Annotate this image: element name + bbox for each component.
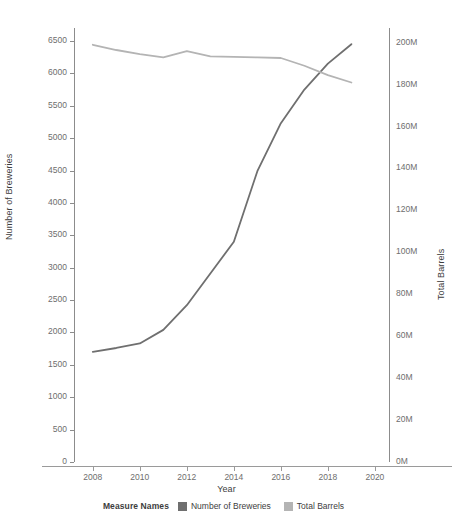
y-right-tick-40M: 40M (396, 372, 436, 382)
y-left-tick-4000: 4000 (34, 197, 67, 207)
legend-title: Measure Names (103, 501, 169, 511)
chart-plot-area (0, 0, 453, 528)
x-axis-title: Year (0, 484, 453, 494)
legend-label-barrels: Total Barrels (297, 501, 344, 511)
legend-swatch-barrels (284, 502, 293, 511)
y-right-tick-140M: 140M (396, 162, 436, 172)
y-left-tick-3000: 3000 (34, 262, 67, 272)
y-left-tick-1000: 1000 (34, 391, 67, 401)
legend-item-barrels[interactable]: Total Barrels (284, 501, 344, 511)
y-right-tick-0M: 0M (396, 456, 436, 466)
y-left-tick-0: 0 (34, 456, 67, 466)
y-left-tick-500: 500 (34, 424, 67, 434)
legend-item-breweries[interactable]: Number of Breweries (178, 501, 271, 511)
y-right-tick-20M: 20M (396, 414, 436, 424)
y-left-tick-4500: 4500 (34, 165, 67, 175)
series-line-barrels (93, 45, 352, 83)
series-line-breweries (93, 44, 352, 352)
y-right-tick-180M: 180M (396, 79, 436, 89)
x-tick-2014: 2014 (214, 472, 254, 482)
y-axis-right-title: Total Barrels (436, 249, 446, 300)
x-tick-2012: 2012 (167, 472, 207, 482)
y-right-tick-60M: 60M (396, 330, 436, 340)
y-left-tick-5000: 5000 (34, 132, 67, 142)
y-axis-left-title: Number of Breweries (4, 154, 14, 240)
y-right-tick-160M: 160M (396, 121, 436, 131)
y-right-tick-80M: 80M (396, 288, 436, 298)
y-left-tick-6000: 6000 (34, 67, 67, 77)
x-tick-2008: 2008 (73, 472, 113, 482)
y-left-tick-3500: 3500 (34, 229, 67, 239)
y-left-tick-5500: 5500 (34, 100, 67, 110)
dual-axis-line-chart: 0500100015002000250030003500400045005000… (0, 0, 453, 528)
y-left-tick-6500: 6500 (34, 35, 67, 45)
chart-legend: Measure Names Number of Breweries Total … (0, 501, 453, 511)
series-lines (93, 44, 352, 352)
x-tick-2016: 2016 (261, 472, 301, 482)
axis-lines (42, 28, 452, 466)
x-tick-2018: 2018 (308, 472, 348, 482)
y-right-tick-200M: 200M (396, 37, 436, 47)
y-left-tick-2000: 2000 (34, 326, 67, 336)
x-axis-ticks (94, 466, 376, 471)
left-axis-ticks (70, 42, 74, 463)
x-tick-2010: 2010 (120, 472, 160, 482)
y-left-tick-1500: 1500 (34, 359, 67, 369)
legend-label-breweries: Number of Breweries (191, 501, 271, 511)
x-tick-2020: 2020 (355, 472, 395, 482)
legend-swatch-breweries (178, 502, 187, 511)
y-left-tick-2500: 2500 (34, 294, 67, 304)
y-right-tick-100M: 100M (396, 246, 436, 256)
y-right-tick-120M: 120M (396, 204, 436, 214)
